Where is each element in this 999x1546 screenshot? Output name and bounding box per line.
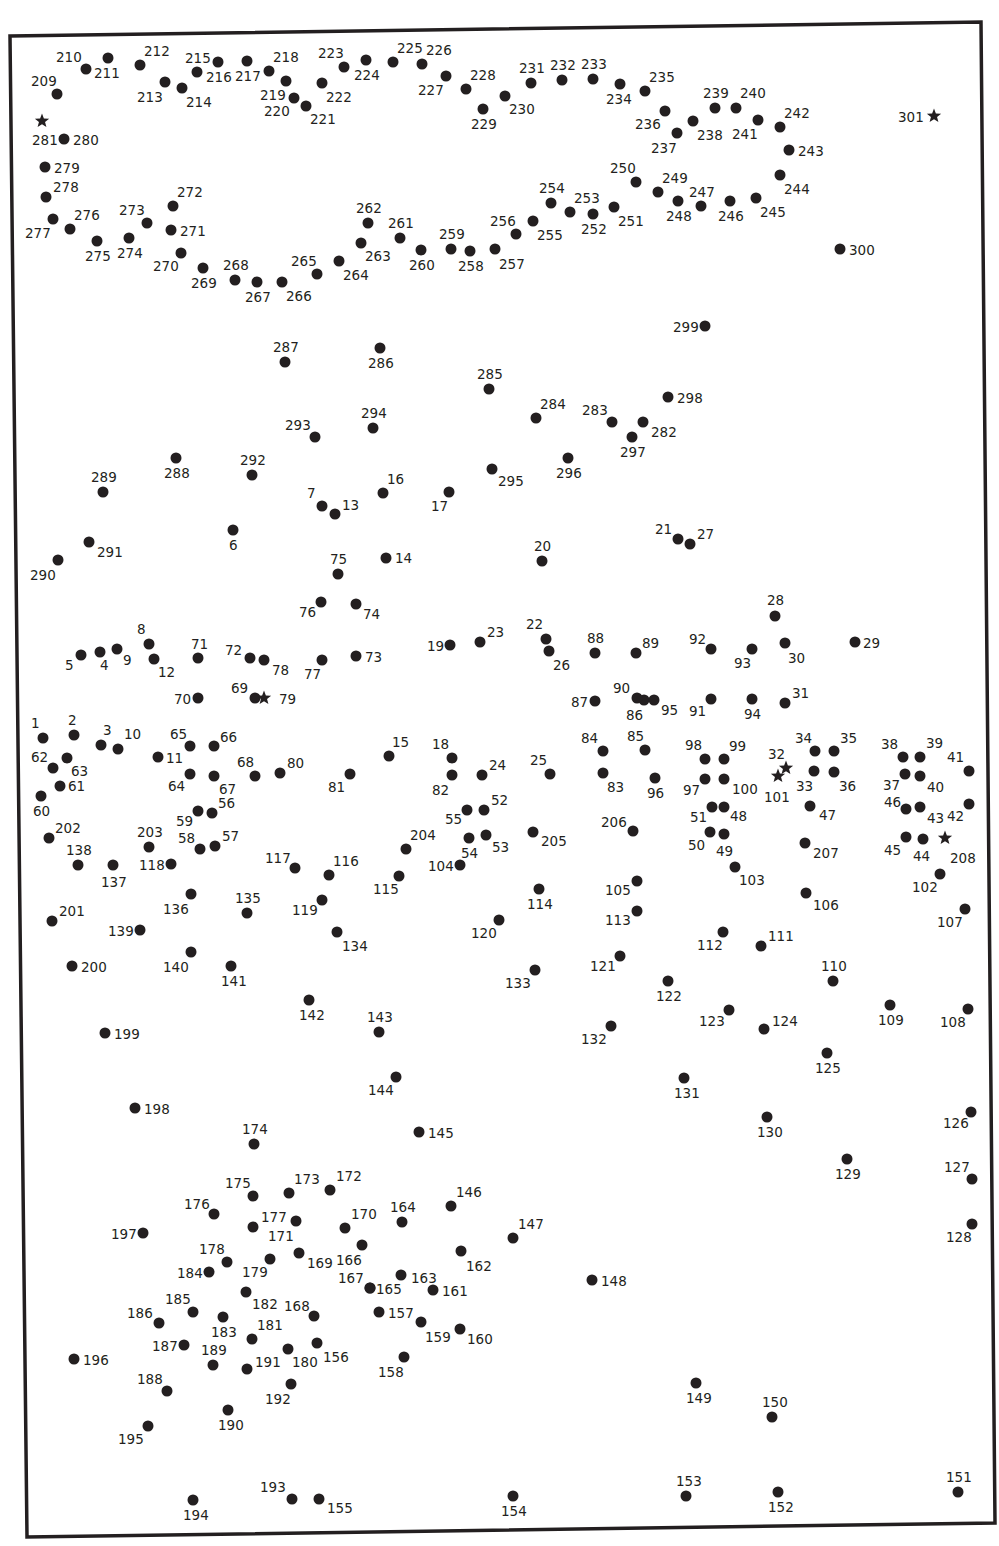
dot: [800, 838, 811, 849]
dot: [166, 859, 177, 870]
dot-number-label: 280: [73, 132, 99, 148]
dot-number-label: 224: [354, 67, 380, 83]
dot-number-label: 11: [166, 750, 183, 766]
dot: [185, 769, 196, 780]
dot-number-label: 279: [54, 160, 80, 176]
dot: [775, 122, 786, 133]
dot-number-label: 301: [898, 109, 924, 125]
dot-number-label: 240: [740, 85, 766, 101]
dot-number-label: 51: [690, 809, 707, 825]
dot: [700, 321, 711, 332]
dot: [809, 766, 820, 777]
dot-number-label: 259: [439, 226, 465, 242]
dot-number-label: 85: [627, 728, 644, 744]
dot: [963, 1004, 974, 1015]
dot-number-label: 119: [292, 902, 318, 918]
dot-number-label: 166: [336, 1252, 362, 1268]
dot-number-label: 294: [361, 405, 387, 421]
dot-number-label: 285: [477, 366, 503, 382]
dot-number-label: 164: [390, 1199, 416, 1215]
dot-number-label: 157: [388, 1305, 414, 1321]
dot-number-label: 75: [330, 551, 347, 567]
dot: [249, 1139, 260, 1150]
dot: [484, 384, 495, 395]
dot: [242, 56, 253, 67]
dot: [615, 951, 626, 962]
dot: [590, 696, 601, 707]
dot-number-label: 225: [397, 40, 423, 56]
dot: [508, 1233, 519, 1244]
dot: [304, 995, 315, 1006]
dot: [391, 1072, 402, 1083]
dot: [494, 915, 505, 926]
dot: [915, 802, 926, 813]
dot: [747, 644, 758, 655]
dot-number-label: 68: [237, 754, 254, 770]
dot: [416, 1317, 427, 1328]
dot-number-label: 161: [442, 1283, 468, 1299]
dot: [113, 744, 124, 755]
dot: [759, 1024, 770, 1035]
dot: [230, 275, 241, 286]
dot-number-label: 182: [252, 1296, 278, 1312]
dot: [195, 844, 206, 855]
dot: [829, 767, 840, 778]
dot-number-label: 211: [94, 65, 120, 81]
dot-number-label: 282: [651, 424, 677, 440]
dot-number-label: 299: [673, 319, 699, 335]
dot: [446, 244, 457, 255]
dot-number-label: 57: [222, 828, 239, 844]
dot-number-label: 198: [144, 1101, 170, 1117]
dot-number-label: 261: [388, 215, 414, 231]
dot-number-label: 247: [689, 184, 715, 200]
dot: [280, 357, 291, 368]
dot: [375, 343, 386, 354]
dot: [681, 1491, 692, 1502]
dot: [81, 64, 92, 75]
dot: [247, 1334, 258, 1345]
dot: [805, 801, 816, 812]
dot: [631, 177, 642, 188]
dot-number-label: 269: [191, 275, 217, 291]
dot: [69, 730, 80, 741]
dot: [312, 1338, 323, 1349]
dot-number-label: 146: [456, 1184, 482, 1200]
dot-number-label: 173: [294, 1171, 320, 1187]
dot-number-label: 246: [718, 208, 744, 224]
dot-number-label: 276: [74, 207, 100, 223]
dot: [96, 740, 107, 751]
dot-number-label: 83: [607, 779, 624, 795]
dot: [208, 1360, 219, 1371]
dot-number-label: 210: [56, 49, 82, 65]
dot: [67, 961, 78, 972]
dot: [762, 1112, 773, 1123]
dot: [465, 246, 476, 257]
dot-number-label: 67: [219, 781, 236, 797]
dot-number-label: 244: [784, 181, 810, 197]
dot-number-label: 236: [635, 116, 661, 132]
dot: [719, 774, 730, 785]
dot-number-label: 108: [940, 1014, 966, 1030]
dot-number-label: 289: [91, 469, 117, 485]
dot: [673, 196, 684, 207]
dot-number-label: 61: [68, 778, 85, 794]
dot: [528, 827, 539, 838]
dot-number-label: 170: [351, 1206, 377, 1222]
dot-number-label: 235: [649, 69, 675, 85]
dot-number-label: 292: [240, 452, 266, 468]
dot-number-label: 6: [229, 537, 238, 553]
dot: [967, 1219, 978, 1230]
dot-number-label: 270: [153, 258, 179, 274]
dot: [241, 1287, 252, 1298]
dot-number-label: 232: [550, 57, 576, 73]
dot-number-label: 243: [798, 143, 824, 159]
dot: [65, 224, 76, 235]
dot-number-label: 253: [574, 190, 600, 206]
dot-number-label: 49: [716, 843, 733, 859]
dot: [475, 637, 486, 648]
dot: [144, 842, 155, 853]
dot-number-label: 263: [365, 248, 391, 264]
dot: [649, 695, 660, 706]
dot-number-label: 151: [946, 1469, 972, 1485]
start-star-icon: [35, 114, 49, 128]
